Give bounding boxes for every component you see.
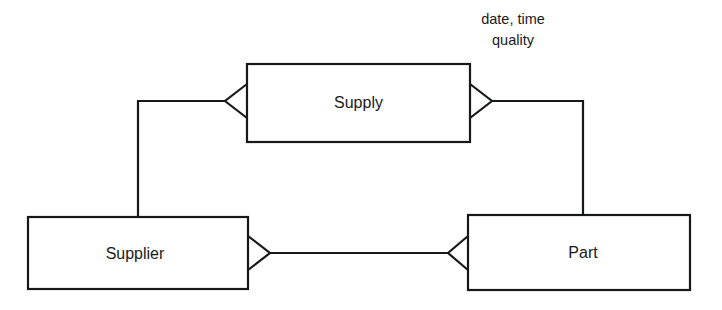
attribute-line-quality: quality <box>492 32 535 48</box>
attribute-annotation-supply: date, time quality <box>481 11 545 48</box>
attribute-line-date-time: date, time <box>481 11 545 27</box>
crows-foot-supply-left <box>225 84 247 118</box>
connector-line-supplier-supply <box>138 101 225 217</box>
entity-supply-label: Supply <box>334 94 383 111</box>
relationship-supplier-part <box>248 236 468 270</box>
entity-part-label: Part <box>568 244 598 261</box>
relationship-supply-part <box>470 84 583 215</box>
crows-foot-supplier-right <box>248 236 270 270</box>
entity-supplier[interactable]: Supplier <box>28 217 248 289</box>
entity-supply[interactable]: Supply <box>247 64 470 142</box>
er-diagram-canvas: Supply Supplier Part date, time quality <box>0 0 722 310</box>
crows-foot-supply-right <box>470 84 492 118</box>
relationship-supplier-supply <box>138 84 247 217</box>
connector-line-supply-part <box>492 101 583 215</box>
er-diagram-svg: Supply Supplier Part date, time quality <box>0 0 722 310</box>
crows-foot-part-left <box>448 236 468 270</box>
entity-part[interactable]: Part <box>468 215 690 290</box>
entity-supplier-label: Supplier <box>106 245 165 262</box>
